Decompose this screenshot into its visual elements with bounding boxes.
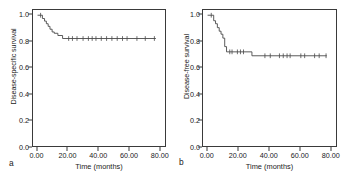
panel-b: Disease-free survival 0.00.20.40.60.81.0… [171,0,342,178]
survival-step-line [208,15,327,56]
y-tick-mark [198,14,202,15]
x-tick-label: 40.00 [89,151,107,160]
survival-curves-figure: Disease-specific survival 0.00.20.40.60.… [0,0,343,178]
x-tick-label: 0.00 [30,151,44,160]
x-tick-label: 20.00 [229,151,247,160]
x-tick-label: 80.00 [322,151,340,160]
x-tick-mark [206,147,207,151]
x-tick-label: 40.00 [260,151,278,160]
x-tick-mark [159,147,160,151]
x-tick-label: 60.00 [291,151,309,160]
y-tick-mark [198,67,202,68]
plot-frame-a [32,9,166,147]
x-tick-mark [36,147,37,151]
y-tick-mark [28,120,32,121]
y-tick-mark [28,67,32,68]
x-tick-label: 0.00 [200,151,214,160]
y-tick-mark [198,40,202,41]
y-tick-mark [28,14,32,15]
km-curve-b [203,10,336,146]
x-tick-mark [67,147,68,151]
panel-letter-a: a [9,158,14,168]
x-tick-label: 20.00 [58,151,76,160]
x-tick-mark [299,147,300,151]
survival-step-line [38,15,156,38]
y-tick-labels-b: 0.00.20.40.60.81.0 [179,9,200,147]
x-axis-title-b: Time (months) [202,162,337,171]
x-tick-mark [330,147,331,151]
x-tick-mark [129,147,130,151]
x-tick-label: 60.00 [120,151,138,160]
x-tick-mark [237,147,238,151]
x-axis-title-a: Time (months) [32,162,166,171]
panel-letter-b: b [179,157,184,167]
plot-frame-b [202,9,337,147]
x-tick-mark [98,147,99,151]
x-tick-mark [268,147,269,151]
y-tick-mark [198,93,202,94]
y-tick-mark [28,147,32,148]
y-tick-mark [198,147,202,148]
y-tick-mark [198,120,202,121]
km-curve-a [33,10,165,146]
panel-a: Disease-specific survival 0.00.20.40.60.… [0,0,171,178]
y-tick-mark [28,40,32,41]
plot-area-a [33,10,165,146]
plot-area-b [203,10,336,146]
y-tick-labels-a: 0.00.20.40.60.81.0 [8,9,29,147]
x-tick-label: 80.00 [151,151,169,160]
y-tick-mark [28,93,32,94]
